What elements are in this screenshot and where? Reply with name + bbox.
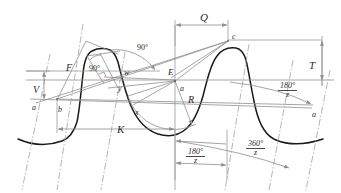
fraction-180-z-right: 180° z (278, 82, 297, 100)
label-angle-90-upper: 90° (137, 44, 148, 52)
line-E-to-c (171, 41, 228, 78)
label-x: x (135, 109, 139, 117)
label-E: E (168, 68, 174, 77)
label-R: R (188, 95, 194, 105)
fraction-360-z-bottom-denominator: z (246, 149, 265, 157)
flank-line-left-2 (100, 53, 118, 88)
diagram-canvas: Q c T 90° 90° F w E y a V R a b x a K 18… (0, 0, 341, 193)
label-V: V (33, 85, 39, 95)
point-c-dot (227, 40, 229, 42)
line-a-to-c (175, 41, 228, 81)
root-slant-line (30, 99, 312, 108)
slant-line-left-to-c (36, 41, 228, 103)
point-b-dot (56, 98, 58, 100)
dim-180z-upper-line (176, 141, 226, 144)
dimension-180z-right (230, 80, 322, 104)
label-b: b (58, 106, 62, 114)
centerline-far-right (306, 70, 330, 190)
label-K: K (117, 124, 124, 135)
label-w: w (124, 69, 129, 77)
label-c: c (232, 33, 236, 41)
fraction-180-z-right-denominator: z (278, 91, 297, 99)
fraction-180-z-bottom-denominator: z (186, 157, 205, 165)
dimension-Q (175, 20, 228, 46)
label-Q: Q (200, 12, 208, 23)
label-F: F (66, 63, 72, 73)
reference-lines-group (26, 40, 334, 80)
angle-arc-90-left (90, 55, 101, 60)
fraction-180-z-bottom: 180° z (186, 148, 205, 166)
label-a-center: a (180, 85, 184, 93)
label-angle-90-left: 90° (89, 65, 100, 73)
label-a-right: a (312, 111, 316, 119)
point-a-dot (174, 80, 176, 82)
centerline-right-root (269, 60, 293, 190)
label-T: T (309, 60, 315, 71)
centerline-left-root (22, 54, 50, 190)
label-a-left: a (32, 104, 36, 112)
label-y: y (118, 85, 122, 93)
fraction-360-z-bottom: 360° z (246, 140, 265, 158)
centerline-right-tooth (225, 44, 249, 190)
